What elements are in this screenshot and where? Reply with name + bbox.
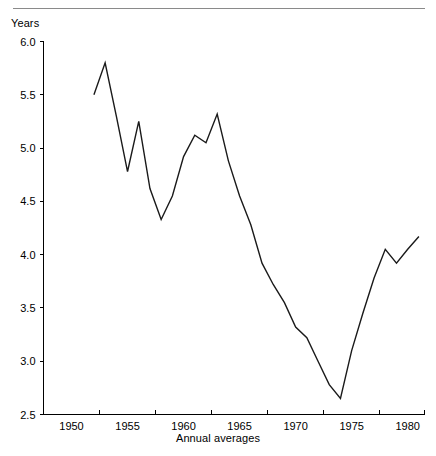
chart-figure: Years 2.53.03.54.04.55.05.56.0 195019551… bbox=[0, 0, 436, 456]
x-tick-label: 1960 bbox=[171, 420, 195, 432]
x-tick-label: 1970 bbox=[283, 420, 307, 432]
x-tick-label: 1965 bbox=[227, 420, 251, 432]
x-tick-label: 1975 bbox=[339, 420, 363, 432]
y-tick-label: 3.5 bbox=[20, 302, 35, 314]
axes-group bbox=[40, 42, 425, 415]
y-tick-label: 5.5 bbox=[20, 89, 35, 101]
data-series-line bbox=[94, 63, 419, 399]
x-tick-label: 1950 bbox=[59, 420, 83, 432]
y-tick-label: 4.5 bbox=[20, 195, 35, 207]
series-group bbox=[94, 63, 419, 399]
y-tick-label: 6.0 bbox=[20, 36, 35, 48]
x-tick-label: 1980 bbox=[395, 420, 419, 432]
y-tick-label: 3.0 bbox=[20, 355, 35, 367]
x-tick-labels-group: 1950195519601965197019751980 bbox=[59, 420, 420, 432]
x-tick-label: 1955 bbox=[115, 420, 139, 432]
y-tick-label: 5.0 bbox=[20, 142, 35, 154]
line-chart-plot: 2.53.03.54.04.55.05.56.0 195019551960196… bbox=[0, 0, 436, 456]
y-tick-labels-group: 2.53.03.54.04.55.05.56.0 bbox=[20, 36, 35, 421]
y-tick-label: 2.5 bbox=[20, 409, 35, 421]
y-tick-label: 4.0 bbox=[20, 249, 35, 261]
x-axis-title: Annual averages bbox=[0, 432, 436, 444]
